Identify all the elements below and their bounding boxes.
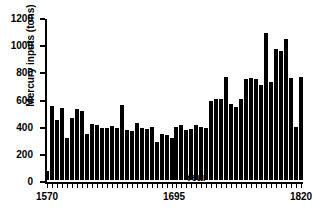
y-axis-tick-label: 1000 xyxy=(11,40,33,51)
bar xyxy=(264,33,268,180)
x-axis-tick xyxy=(67,184,68,188)
x-axis-tick xyxy=(216,184,217,188)
bar xyxy=(55,120,59,180)
bar xyxy=(179,125,183,180)
bar xyxy=(80,111,84,180)
y-axis-tick-label: 1200 xyxy=(11,13,33,24)
bar xyxy=(45,171,49,181)
bar xyxy=(125,130,129,180)
bar xyxy=(150,127,154,180)
x-axis-tick xyxy=(181,184,182,188)
x-axis-tick xyxy=(296,184,297,188)
x-axis-tick xyxy=(271,184,272,188)
x-axis-tick xyxy=(127,184,128,188)
x-axis-tick xyxy=(57,184,58,188)
bar xyxy=(155,142,159,180)
bar xyxy=(105,128,109,180)
bar xyxy=(214,99,218,180)
bar xyxy=(90,124,94,180)
x-axis-tick xyxy=(107,184,108,188)
x-axis-tick xyxy=(157,184,158,188)
x-axis-tick xyxy=(261,184,262,188)
x-axis-tick xyxy=(122,184,123,188)
bar xyxy=(95,125,99,180)
x-axis-tick xyxy=(87,184,88,188)
x-axis-tick-label: 1570 xyxy=(36,191,58,202)
y-axis-tick-label: 600 xyxy=(16,94,33,105)
x-axis-tick xyxy=(142,184,143,188)
bar xyxy=(229,104,233,180)
bar xyxy=(209,101,213,180)
bar xyxy=(294,127,298,180)
y-axis-tick-label: 400 xyxy=(16,121,33,132)
bar xyxy=(65,138,69,180)
bar xyxy=(234,107,238,180)
y-axis-tick: 1000 xyxy=(40,45,45,47)
bar xyxy=(165,135,169,180)
x-axis-tick xyxy=(246,184,247,188)
bar xyxy=(239,99,243,181)
x-axis-tick xyxy=(301,184,302,188)
bar xyxy=(60,108,64,180)
x-axis-tick xyxy=(117,184,118,188)
bar xyxy=(269,82,273,180)
bar xyxy=(174,127,178,180)
x-axis-tick xyxy=(226,184,227,188)
x-axis-tick xyxy=(137,184,138,188)
bar xyxy=(140,128,144,180)
x-axis-tick xyxy=(147,184,148,188)
y-axis-tick: 0 xyxy=(40,181,45,183)
bar xyxy=(284,39,288,180)
mercury-inputs-bar-chart: Mercury inputs (tons) 020040060080010001… xyxy=(0,0,312,210)
x-axis-tick xyxy=(266,184,267,188)
y-axis-tick: 200 xyxy=(40,154,45,156)
bar xyxy=(244,79,248,180)
y-axis-tick: 400 xyxy=(40,127,45,129)
x-axis-tick xyxy=(251,184,252,188)
bar xyxy=(170,138,174,180)
x-axis-tick xyxy=(201,184,202,188)
x-axis-tick xyxy=(206,184,207,188)
x-axis-tick-label: 1695 xyxy=(163,191,185,202)
bar xyxy=(135,123,139,180)
bar xyxy=(259,85,263,180)
x-axis-tick xyxy=(211,184,212,188)
y-axis-tick: 1200 xyxy=(40,18,45,20)
bar xyxy=(224,77,228,180)
x-axis-tick xyxy=(196,184,197,188)
x-axis-tick xyxy=(102,184,103,188)
y-axis-tick-label: 200 xyxy=(16,148,33,159)
bar xyxy=(75,109,79,180)
bar xyxy=(274,49,278,180)
x-axis-tick xyxy=(112,184,113,188)
bar xyxy=(100,128,104,180)
x-axis-tick xyxy=(186,184,187,188)
x-axis-tick xyxy=(62,184,63,188)
y-axis-tick: 600 xyxy=(40,100,45,102)
x-axis-tick xyxy=(291,184,292,188)
x-axis-tick xyxy=(241,184,242,188)
bar xyxy=(120,105,124,180)
x-axis-tick xyxy=(92,184,93,188)
x-axis-tick xyxy=(221,184,222,188)
bar xyxy=(249,78,253,180)
x-axis-tick xyxy=(176,184,177,188)
x-axis-line xyxy=(45,182,303,184)
x-axis-tick xyxy=(172,184,173,188)
bar xyxy=(299,77,303,180)
bar xyxy=(70,118,74,180)
y-axis-tick: 800 xyxy=(40,72,45,74)
x-axis-tick xyxy=(236,184,237,188)
bar xyxy=(160,134,164,180)
bar xyxy=(219,99,223,181)
bar xyxy=(50,106,54,180)
x-axis-tick xyxy=(162,184,163,188)
x-axis-tick xyxy=(72,184,73,188)
x-axis-tick xyxy=(132,184,133,188)
bar xyxy=(110,126,114,180)
x-axis-tick xyxy=(82,184,83,188)
x-axis-tick xyxy=(47,184,48,188)
bar xyxy=(145,129,149,180)
x-axis-tick xyxy=(52,184,53,188)
x-axis-tick xyxy=(281,184,282,188)
